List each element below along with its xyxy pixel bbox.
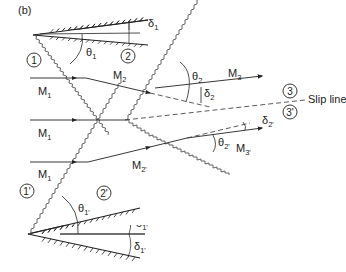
theta2p-arc bbox=[213, 135, 216, 152]
svg-text:2: 2 bbox=[125, 51, 131, 62]
delta2p-arc bbox=[243, 122, 246, 130]
slip-line-label: Slip line bbox=[308, 93, 346, 105]
delta2p-label: δ2' bbox=[262, 114, 274, 129]
svg-text:2': 2' bbox=[100, 188, 108, 199]
streamline-m3p bbox=[187, 128, 262, 138]
theta2p-label: θ2' bbox=[218, 136, 230, 151]
region-3-prime: 3' bbox=[283, 105, 297, 119]
svg-text:1: 1 bbox=[31, 55, 37, 66]
svg-text:3: 3 bbox=[287, 86, 293, 97]
diagram-main: 1 2 3 3' 1' 2' Slip line M1 M1 M1 M2 M3 … bbox=[0, 0, 346, 272]
svg-text:3': 3' bbox=[286, 107, 294, 118]
delta2-label: δ2 bbox=[204, 87, 214, 102]
m3p-label: M3' bbox=[236, 142, 251, 157]
region-3: 3 bbox=[283, 84, 297, 98]
theta2-label: θ2 bbox=[192, 70, 202, 85]
svg-text:1': 1' bbox=[23, 186, 31, 197]
